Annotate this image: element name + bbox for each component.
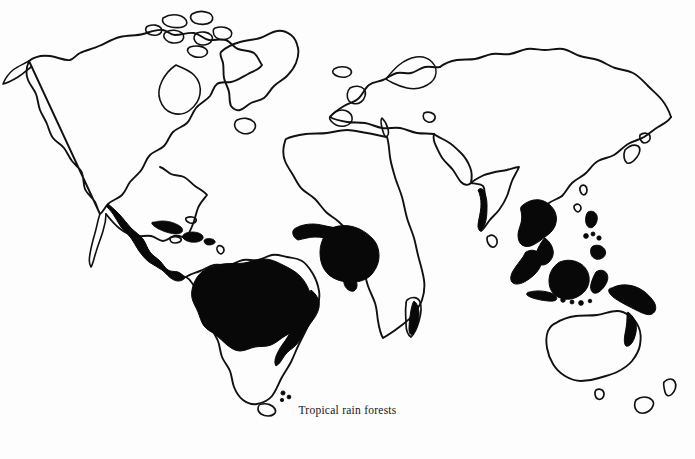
coastline-northern-eurasia bbox=[440, 49, 671, 117]
coastline-baja-california bbox=[89, 214, 106, 267]
coastline-sri-lanka bbox=[487, 235, 497, 247]
coastline-east-asia bbox=[562, 117, 671, 196]
coastline-europe-west bbox=[330, 67, 440, 117]
coastline-falkland-island-2 bbox=[287, 395, 291, 399]
forest-region-hispaniola bbox=[183, 232, 203, 242]
forest-region-small-island-3 bbox=[579, 301, 584, 306]
forest-region-small-island-4 bbox=[588, 299, 592, 303]
forest-region-queensland-coast bbox=[624, 312, 636, 346]
figure-caption: Tropical rain forests bbox=[0, 404, 695, 416]
coastline-arctic-island-7 bbox=[188, 46, 208, 57]
coastline-lesser-antilles bbox=[217, 246, 224, 254]
forest-region-indochina bbox=[518, 200, 556, 247]
forest-region-cuba bbox=[152, 221, 183, 234]
tropical-rain-forest-map-figure: Tropical rain forests bbox=[0, 0, 695, 459]
forest-region-philippines-visayas-1 bbox=[584, 234, 589, 239]
forest-region-philippines-visayas-2 bbox=[591, 232, 595, 236]
forest-region-congo-basin bbox=[320, 226, 379, 292]
coastline-north-america bbox=[27, 30, 262, 214]
coastline-hudson-bay bbox=[159, 65, 200, 114]
coastline-falkland-island-1 bbox=[281, 391, 285, 395]
forest-region-small-island-2 bbox=[570, 300, 574, 304]
coastline-arctic-island-5 bbox=[213, 27, 231, 40]
forest-region-madagascar-east bbox=[409, 301, 419, 334]
coastline-arctic-island-2 bbox=[191, 12, 213, 25]
coastline-greenland bbox=[220, 31, 298, 111]
forest-region-borneo bbox=[549, 260, 589, 299]
forest-region-sulawesi bbox=[591, 270, 608, 293]
forest-region-philippines-mindanao bbox=[591, 245, 606, 259]
coastline-jamaica bbox=[170, 237, 181, 243]
coastline-british-isles bbox=[347, 86, 365, 104]
coastline-newfoundland bbox=[235, 118, 256, 134]
coastline-iceland bbox=[333, 67, 352, 78]
forest-region-sumatra bbox=[511, 250, 542, 284]
forest-region-philippines-luzon bbox=[586, 211, 598, 228]
coastline-taiwan bbox=[580, 185, 587, 195]
world-map-svg bbox=[0, 0, 695, 459]
coastline-falkland-island-3 bbox=[280, 398, 283, 401]
coastline-black-caspian-sea bbox=[423, 112, 435, 122]
coastline-tasmania bbox=[595, 389, 604, 399]
coastline-arabia-persia bbox=[434, 134, 472, 185]
forest-region-puerto-rico bbox=[204, 239, 215, 245]
coastline-new-zealand-north bbox=[664, 379, 676, 396]
forest-region-philippines-visayas-3 bbox=[597, 236, 601, 240]
coastline-gulf-of-mexico-florida bbox=[106, 167, 207, 241]
coastline-arctic-island-1 bbox=[163, 15, 187, 28]
coastline-japan bbox=[624, 145, 640, 163]
coastline-arctic-island-3 bbox=[164, 30, 184, 43]
forest-region-small-island-1 bbox=[561, 298, 566, 303]
coastline-small-island-outline-1 bbox=[574, 204, 581, 212]
